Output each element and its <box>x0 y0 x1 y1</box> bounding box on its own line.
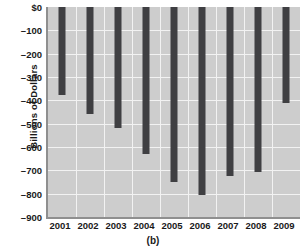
y-axis-tick-label: –300 <box>8 72 42 83</box>
vertical-gridline <box>216 7 217 217</box>
bar <box>171 7 178 182</box>
x-axis-tick-label: 2002 <box>77 220 98 231</box>
y-axis-tick-label: $0 <box>8 2 42 13</box>
vertical-gridline <box>76 7 77 217</box>
y-axis-tick-labels: $0–100–200–300–400–500–600–700–800–900 <box>8 7 42 217</box>
y-axis-tick-label: –700 <box>8 165 42 176</box>
bar <box>283 7 290 103</box>
y-axis-tick-label: –900 <box>8 212 42 223</box>
x-axis-tick-label: 2003 <box>105 220 126 231</box>
y-axis-tick-label: –800 <box>8 188 42 199</box>
vertical-gridline <box>160 7 161 217</box>
y-axis-tick-label: –600 <box>8 142 42 153</box>
bar <box>59 7 66 95</box>
x-axis-tick-label: 2005 <box>161 220 182 231</box>
figure-caption: (b) <box>0 235 306 246</box>
x-axis-tick-label: 2004 <box>133 220 154 231</box>
y-axis-tick-label: –400 <box>8 95 42 106</box>
bar <box>199 7 206 195</box>
vertical-gridline <box>188 7 189 217</box>
vertical-gridline <box>132 7 133 217</box>
plot-area <box>46 7 300 219</box>
bar <box>255 7 262 172</box>
vertical-gridline <box>244 7 245 217</box>
bar <box>115 7 122 128</box>
x-axis-tick-label: 2008 <box>245 220 266 231</box>
x-axis-tick-label: 2009 <box>273 220 294 231</box>
x-axis-tick-label: 2006 <box>189 220 210 231</box>
y-axis-tick-label: –200 <box>8 48 42 59</box>
x-axis-tick-label: 2007 <box>217 220 238 231</box>
vertical-gridline <box>104 7 105 217</box>
horizontal-gridline <box>48 194 300 195</box>
bar <box>227 7 234 176</box>
bar <box>87 7 94 114</box>
y-axis-tick-label: –500 <box>8 118 42 129</box>
vertical-gridline <box>272 7 273 217</box>
chart-figure: Billions of Dollars $0–100–200–300–400–5… <box>0 0 306 251</box>
bar <box>143 7 150 154</box>
y-axis-tick-label: –100 <box>8 25 42 36</box>
x-axis-tick-label: 2001 <box>49 220 70 231</box>
x-axis-tick-labels: 200120022003200420052006200720082009 <box>46 220 298 234</box>
